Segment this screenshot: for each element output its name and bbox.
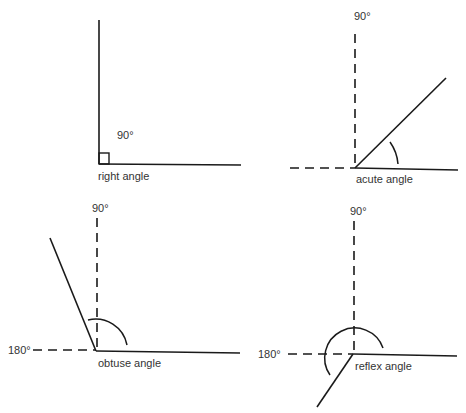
- acute-angle-panel: 90° acute angle: [290, 10, 458, 185]
- reflex-horizontal-arm: [353, 354, 457, 356]
- right-angle-name-label: right angle: [98, 170, 149, 182]
- acute-90-label: 90°: [354, 10, 371, 22]
- right-angle-square-marker: [99, 153, 109, 164]
- right-angle-panel: 90° right angle: [98, 20, 241, 182]
- acute-angle-name-label: acute angle: [356, 173, 413, 185]
- obtuse-angle-arc: [88, 319, 127, 345]
- obtuse-horizontal-arm: [96, 351, 240, 353]
- right-angle-degree-label: 90°: [117, 129, 134, 141]
- obtuse-180-label: 180°: [8, 344, 31, 356]
- obtuse-slanted-arm: [50, 238, 96, 351]
- acute-horizontal-arm: [355, 168, 458, 170]
- reflex-slanted-arm: [317, 354, 353, 407]
- obtuse-angle-panel: 90° 180° obtuse angle: [8, 202, 240, 369]
- angle-types-diagram: 90° right angle 90° acute angle 90° 180°…: [0, 0, 466, 413]
- acute-angle-arc: [390, 142, 398, 164]
- right-angle-horizontal-arm: [99, 164, 241, 165]
- reflex-90-label: 90°: [350, 205, 367, 217]
- reflex-angle-name-label: reflex angle: [355, 360, 412, 372]
- reflex-angle-panel: 90° 180° reflex angle: [258, 205, 457, 407]
- acute-slanted-arm: [355, 78, 446, 168]
- obtuse-angle-name-label: obtuse angle: [98, 357, 161, 369]
- reflex-180-label: 180°: [258, 348, 281, 360]
- obtuse-90-label: 90°: [92, 202, 109, 214]
